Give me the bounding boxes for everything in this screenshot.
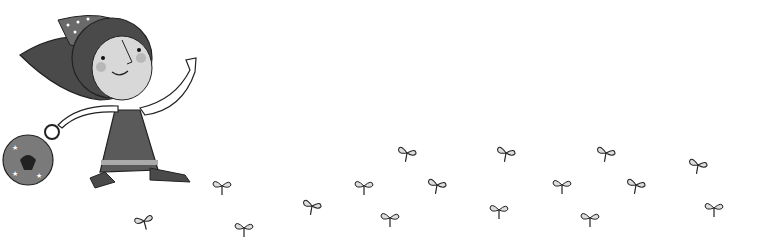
illustration-canvas: ★ ★ ★ bbox=[0, 0, 760, 251]
sprout-icon bbox=[298, 194, 325, 218]
sprout-icon bbox=[423, 173, 450, 197]
sprout-icon bbox=[492, 141, 519, 165]
sprout-icon bbox=[210, 176, 234, 196]
svg-text:★: ★ bbox=[36, 172, 42, 180]
sprout-icon bbox=[550, 175, 574, 195]
svg-text:★: ★ bbox=[12, 170, 18, 178]
sprout-icon bbox=[487, 200, 511, 220]
sprout-icon bbox=[622, 173, 649, 197]
sprout-icon bbox=[592, 141, 619, 165]
sprout-icon bbox=[352, 176, 376, 196]
sprout-icon bbox=[684, 153, 711, 177]
svg-text:★: ★ bbox=[12, 144, 18, 152]
sprout-icon bbox=[702, 198, 726, 218]
sprout-icon bbox=[393, 141, 420, 165]
sprout-icon bbox=[232, 218, 256, 238]
sprout-icon bbox=[378, 208, 402, 228]
sprout-icon bbox=[578, 208, 602, 228]
